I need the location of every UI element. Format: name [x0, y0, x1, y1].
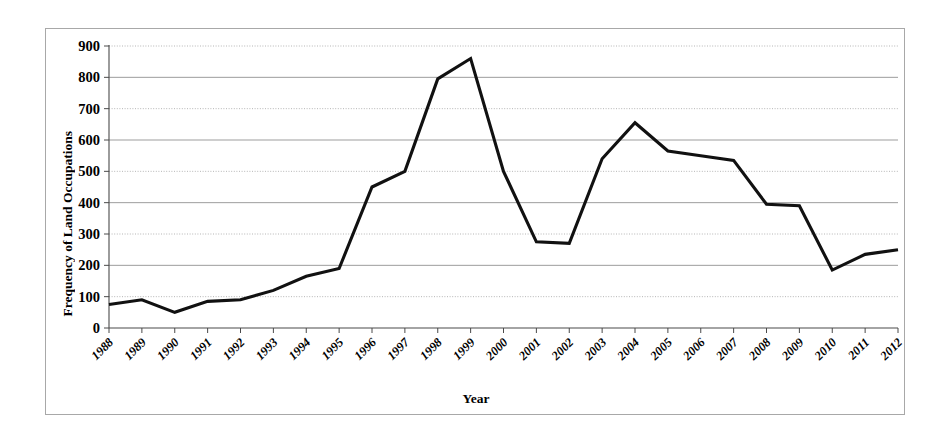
y-tick-label: 600 — [78, 132, 100, 148]
x-tick-label: 2010 — [811, 335, 840, 364]
line-chart-svg: 0100200300400500600700800900 19881989199… — [46, 29, 906, 416]
x-tick-label: 2007 — [712, 335, 741, 364]
y-tick-label: 300 — [78, 226, 100, 242]
x-tick-label: 2009 — [778, 335, 807, 364]
x-tick-label: 2000 — [482, 335, 511, 364]
x-tick-label: 1989 — [121, 335, 149, 363]
y-tick-label: 100 — [78, 289, 100, 305]
data-series-group — [109, 59, 898, 313]
x-tick-label: 1996 — [352, 335, 380, 363]
x-axis-title-text: Year — [463, 391, 490, 406]
chart-plot-area: Frequency of Land Occupations 0100200300… — [46, 29, 904, 414]
y-tick-label: 400 — [78, 195, 100, 211]
x-tick-label: 2001 — [515, 335, 543, 363]
x-tick-label: 2004 — [614, 335, 642, 363]
x-tick-label: 1993 — [253, 335, 281, 363]
x-tick-label: 2011 — [844, 335, 872, 363]
x-tick-label: 1997 — [384, 335, 412, 363]
x-tick-label-group: 1988198919901991199219931994199519961997… — [89, 335, 906, 364]
x-axis-title: Year — [46, 391, 906, 407]
x-axis-group — [109, 328, 898, 333]
y-tick-label: 500 — [78, 163, 100, 179]
y-tick-label: 200 — [78, 257, 100, 273]
x-tick-label: 1988 — [89, 335, 117, 363]
x-tick-label: 2006 — [680, 335, 709, 364]
x-tick-label: 1992 — [220, 335, 248, 363]
x-tick-label: 2012 — [877, 335, 905, 363]
x-tick-label: 2002 — [548, 335, 576, 363]
x-tick-label: 1991 — [187, 335, 215, 363]
y-tick-label: 0 — [93, 320, 100, 336]
x-tick-label: 1999 — [450, 335, 478, 363]
x-tick-label: 1994 — [286, 335, 314, 363]
x-tick-label: 1998 — [417, 335, 445, 363]
y-tick-group: 0100200300400500600700800900 — [78, 38, 109, 336]
y-tick-label: 800 — [78, 69, 100, 85]
y-tick-label: 700 — [78, 101, 100, 117]
y-tick-label: 900 — [78, 38, 100, 54]
x-tick-label: 1990 — [154, 335, 182, 363]
data-series-line — [109, 59, 898, 313]
x-tick-label: 1995 — [319, 335, 347, 363]
x-tick-label: 2003 — [581, 335, 609, 363]
x-tick-label: 2005 — [647, 335, 675, 363]
x-tick-label: 2008 — [745, 335, 774, 364]
chart-frame: Frequency of Land Occupations 0100200300… — [45, 28, 905, 415]
